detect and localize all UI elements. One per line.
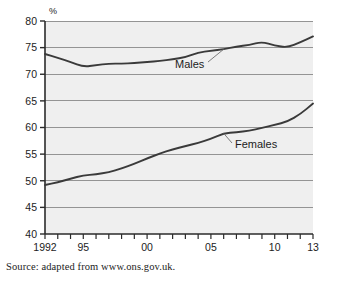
- y-axis-tick-labels: 404550556065707580: [25, 15, 37, 240]
- y-tick-label-55: 55: [25, 148, 37, 160]
- y-tick-label-70: 70: [25, 68, 37, 80]
- x-tick-label-1992: 1992: [33, 241, 57, 253]
- x-tick-label-2010: 10: [269, 241, 281, 253]
- y-tick-label-40: 40: [25, 228, 37, 240]
- x-tick-label-1995: 95: [77, 241, 89, 253]
- y-tick-label-50: 50: [25, 175, 37, 187]
- series-label-males: Males: [175, 58, 205, 70]
- percentage-employment-line-chart: 404550556065707580 19929500051013 % Male…: [0, 0, 337, 283]
- y-axis-unit-label: %: [49, 6, 57, 16]
- x-axis-tick-labels: 19929500051013: [33, 241, 319, 253]
- x-tick-label-2000: 00: [141, 241, 153, 253]
- y-tick-label-65: 65: [25, 95, 37, 107]
- y-tick-label-80: 80: [25, 15, 37, 27]
- series-label-females: Females: [235, 138, 278, 150]
- chart-figure: 404550556065707580 19929500051013 % Male…: [0, 0, 337, 283]
- y-tick-label-45: 45: [25, 201, 37, 213]
- y-tick-label-75: 75: [25, 41, 37, 53]
- y-tick-label-60: 60: [25, 121, 37, 133]
- x-tick-label-2005: 05: [205, 241, 217, 253]
- x-tick-label-2013: 13: [307, 241, 319, 253]
- source-note: Source: adapted from www.ons.gov.uk.: [6, 261, 175, 272]
